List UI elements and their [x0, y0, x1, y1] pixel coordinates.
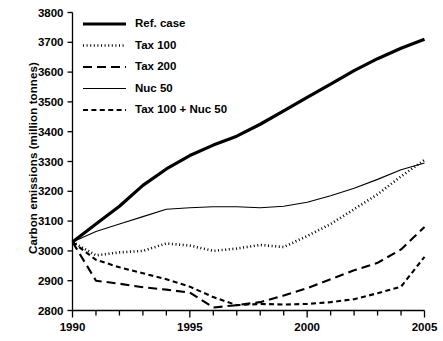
y-axis-ticks: 2800290030003100320033003400350036003700…	[38, 7, 73, 317]
legend-label-2: Tax 200	[135, 60, 176, 72]
y-tick-label: 3500	[38, 96, 64, 108]
chart-legend: Ref. caseTax 100Tax 200Nuc 50Tax 100 + N…	[83, 17, 227, 115]
series-lines	[73, 39, 425, 307]
legend-label-0: Ref. case	[135, 17, 186, 29]
x-tick-label: 2000	[294, 321, 320, 333]
x-tick-label: 1990	[60, 321, 86, 333]
y-tick-label: 3600	[38, 66, 64, 78]
y-tick-label: 3200	[38, 185, 64, 197]
y-tick-label: 3300	[38, 156, 64, 168]
y-tick-label: 2800	[38, 305, 64, 317]
y-tick-label: 3000	[38, 245, 64, 257]
y-tick-label: 3800	[38, 7, 64, 19]
x-axis-ticks: 1990199520002005	[60, 311, 438, 333]
y-tick-label: 3700	[38, 36, 64, 48]
y-tick-label: 2900	[38, 275, 64, 287]
x-tick-label: 2005	[412, 321, 438, 333]
legend-label-3: Nuc 50	[135, 82, 173, 94]
legend-label-1: Tax 100	[135, 39, 176, 51]
legend-label-4: Tax 100 + Nuc 50	[135, 103, 227, 115]
series-line-0	[73, 39, 425, 242]
chart-figure: Carbon emissions (million tonnes) 280029…	[0, 0, 443, 341]
series-line-4	[73, 242, 425, 305]
axis-frame	[73, 13, 425, 311]
line-chart: 2800290030003100320033003400350036003700…	[0, 0, 443, 341]
y-tick-label: 3100	[38, 215, 64, 227]
x-tick-label: 1995	[177, 321, 203, 333]
y-tick-label: 3400	[38, 126, 64, 138]
